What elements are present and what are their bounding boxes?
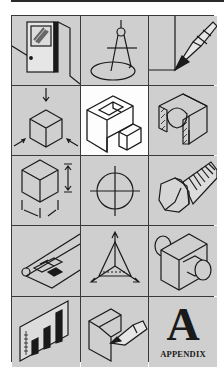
cylinder-block-icon: [149, 226, 217, 296]
pencil-sketch-icon: [149, 16, 217, 85]
tile-centerline-circle[interactable]: [81, 156, 148, 225]
tile-door[interactable]: [12, 16, 80, 85]
tile-compass[interactable]: [81, 16, 148, 85]
section-view-icon: [149, 86, 217, 155]
tile-axes-triangle[interactable]: [81, 226, 148, 296]
tile-appendix[interactable]: A APPENDIX: [149, 297, 217, 367]
isometric-block-icon: [81, 86, 148, 155]
cube-projection-icon: [12, 86, 80, 155]
bar-chart-icon: [12, 297, 80, 367]
tile-cylinder-block[interactable]: [149, 226, 217, 296]
tile-cube-dimension[interactable]: [12, 156, 80, 225]
tile-isometric-block[interactable]: [81, 86, 148, 155]
appendix-label: APPENDIX: [149, 349, 217, 359]
tile-bar-chart[interactable]: [12, 297, 80, 367]
blueprint-scroll-icon: [12, 226, 80, 296]
centerline-circle-icon: [81, 156, 148, 225]
bolt-icon: [149, 156, 217, 225]
axes-triangle-icon: [81, 226, 148, 296]
icon-grid: A APPENDIX: [11, 15, 214, 362]
tile-bolt[interactable]: [149, 156, 217, 225]
compass-icon: [81, 16, 148, 85]
door-icon: [12, 16, 80, 85]
tile-pencil-on-block[interactable]: [81, 297, 148, 367]
tile-section-view[interactable]: [149, 86, 217, 155]
appendix-letter: A: [149, 301, 217, 349]
cube-dimension-icon: [12, 156, 80, 225]
pencil-on-block-icon: [81, 297, 148, 367]
top-bar: [11, 0, 224, 2]
tile-blueprint-scroll[interactable]: [12, 226, 80, 296]
tile-cube-projection[interactable]: [12, 86, 80, 155]
tile-pencil-sketch[interactable]: [149, 16, 217, 85]
